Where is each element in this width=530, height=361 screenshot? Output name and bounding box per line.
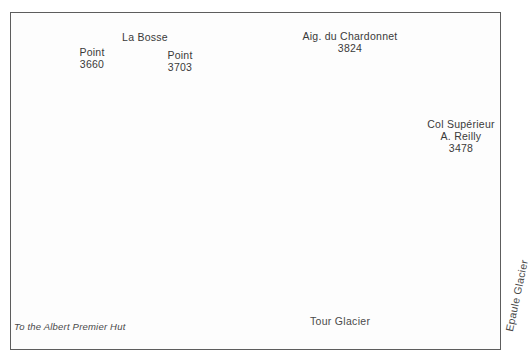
label-point-3660-line2: 3660 bbox=[62, 59, 122, 71]
label-col-line2: A. Reilly bbox=[409, 130, 513, 142]
label-chardonnet-line2: 3824 bbox=[287, 42, 413, 54]
label-point-3703-line1: Point bbox=[150, 50, 210, 62]
label-la-bosse: La Bosse bbox=[104, 32, 186, 44]
label-tour-glacier: Tour Glacier bbox=[310, 315, 370, 327]
label-aiguille-du-chardonnet: Aig. du Chardonnet 3824 bbox=[287, 30, 413, 54]
label-point-3660-line1: Point bbox=[62, 47, 122, 59]
label-to-the-albert-premier-hut: To the Albert Premier Hut bbox=[14, 321, 125, 332]
label-point-3660: Point 3660 bbox=[62, 47, 122, 70]
label-col-superieur-a-reilly: Col Supérieur A. Reilly 3478 bbox=[409, 118, 513, 154]
label-chardonnet-line1: Aig. du Chardonnet bbox=[287, 30, 413, 42]
label-col-line1: Col Supérieur bbox=[409, 118, 513, 130]
label-col-line3: 3478 bbox=[409, 142, 513, 154]
label-point-3703: Point 3703 bbox=[150, 50, 210, 73]
label-la-bosse-line1: La Bosse bbox=[104, 32, 186, 44]
label-point-3703-line2: 3703 bbox=[150, 62, 210, 74]
